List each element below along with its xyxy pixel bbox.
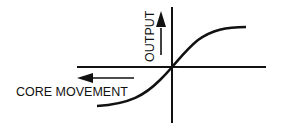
arrow-up-icon — [156, 11, 166, 27]
y-axis-label: OUTPUT — [143, 10, 157, 62]
core-movement-arrow — [77, 73, 134, 83]
output-vs-core-movement-diagram: OUTPUT CORE MOVEMENT — [0, 0, 283, 130]
x-axis-label: CORE MOVEMENT — [16, 85, 128, 99]
output-arrow — [156, 11, 166, 55]
arrow-left-icon — [77, 73, 93, 83]
